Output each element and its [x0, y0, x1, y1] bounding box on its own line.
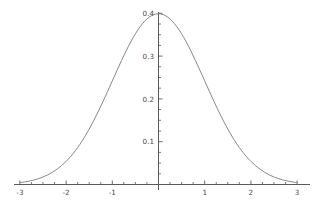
x-tick-label: 1	[202, 188, 207, 197]
chart-canvas: -3-2-1123 0.10.20.30.4	[0, 0, 318, 208]
x-tick-label: -2	[63, 188, 70, 197]
y-axis-tick-labels: 0.10.20.30.4	[143, 9, 155, 146]
x-tick-label: -3	[16, 188, 23, 197]
normal-distribution-chart: -3-2-1123 0.10.20.30.4	[0, 0, 318, 208]
x-axis-tick-labels: -3-2-1123	[16, 188, 299, 197]
x-tick-label: 3	[295, 188, 300, 197]
y-tick-label: 0.1	[143, 137, 154, 146]
x-tick-label: -1	[109, 188, 116, 197]
y-tick-label: 0.2	[143, 95, 154, 104]
y-tick-label: 0.3	[143, 52, 154, 61]
y-tick-label: 0.4	[143, 9, 155, 18]
axes-group	[14, 12, 310, 190]
x-tick-label: 2	[249, 188, 254, 197]
